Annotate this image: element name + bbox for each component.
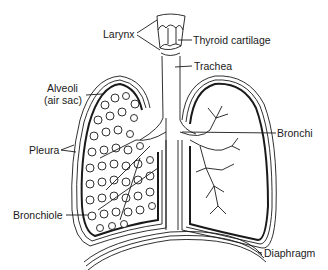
- diaphragm-shape: [84, 231, 266, 270]
- label-bronchi: Bronchi: [277, 127, 313, 139]
- label-larynx: Larynx: [103, 28, 135, 40]
- label-alveoli: Alveoli: [47, 82, 78, 94]
- label-diaphragm: Diaphragm: [264, 247, 315, 259]
- label-trachea: Trachea: [194, 60, 232, 72]
- label-thyroid-cartilage: Thyroid cartilage: [193, 34, 271, 46]
- label-air-sac: (air sac): [44, 94, 82, 106]
- larynx-trachea: [140, 14, 196, 230]
- right-lung: [180, 76, 276, 248]
- label-bronchiole: Bronchiole: [13, 209, 63, 221]
- left-lung: [72, 76, 166, 246]
- label-pleura: Pleura: [29, 144, 59, 156]
- lungs-diagram: Larynx Thyroid cartilage Trachea Alveoli…: [0, 0, 328, 270]
- alveoli-texture: [86, 93, 156, 232]
